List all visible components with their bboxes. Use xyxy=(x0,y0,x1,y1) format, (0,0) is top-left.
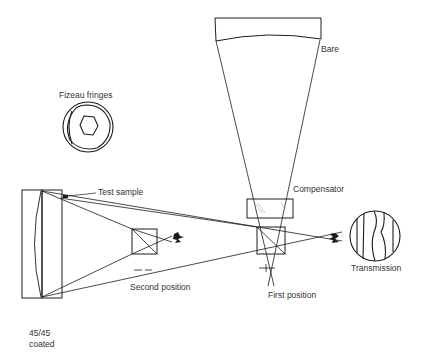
label-fizeau-fringes: Fizeau fringes xyxy=(59,90,112,100)
label-test-sample: Test sample xyxy=(98,187,143,197)
horizontal-beam xyxy=(42,191,342,297)
label-coating-ratio: 45/45 xyxy=(29,328,50,338)
label-bare: Bare xyxy=(321,44,339,54)
left-mirror-assembly xyxy=(22,190,62,298)
optical-diagram xyxy=(0,0,424,355)
label-second-position: Second position xyxy=(130,282,191,292)
eye-icon xyxy=(173,232,184,243)
label-coating-state: coated xyxy=(29,339,55,349)
diagram-canvas: Bare Fizeau fringes Test sample Compensa… xyxy=(0,0,424,355)
label-first-position: First position xyxy=(268,290,316,300)
transmission-fringe-pattern xyxy=(350,211,400,261)
label-compensator: Compensator xyxy=(293,184,344,194)
eye-icon xyxy=(329,233,339,243)
fizeau-fringe-pattern xyxy=(63,102,113,152)
bare-mirror xyxy=(215,18,321,41)
label-transmission: Transmission xyxy=(351,263,401,273)
vertical-beam xyxy=(216,40,320,286)
